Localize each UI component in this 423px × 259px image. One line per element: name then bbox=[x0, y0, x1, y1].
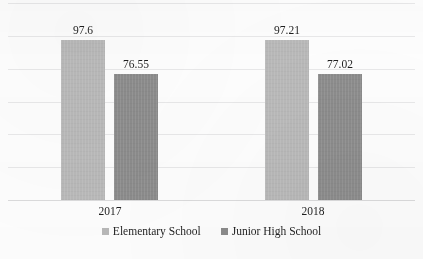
x-axis-label-2018: 2018 bbox=[302, 206, 325, 218]
chart-legend: Elementary SchoolJunior High School bbox=[0, 226, 423, 238]
legend-item-junior-high-school[interactable]: Junior High School bbox=[221, 226, 321, 238]
bar-fill bbox=[265, 40, 309, 200]
gridline bbox=[8, 3, 415, 4]
x-axis-line bbox=[8, 200, 415, 201]
legend-swatch-icon bbox=[102, 228, 109, 235]
bar-value-label: 97.6 bbox=[73, 25, 93, 37]
bar-2018-junior-high-school[interactable]: 77.02 bbox=[318, 74, 362, 200]
bar-2018-elementary-school[interactable]: 97.21 bbox=[265, 40, 309, 200]
gridline bbox=[8, 36, 415, 37]
legend-item-elementary-school[interactable]: Elementary School bbox=[102, 226, 201, 238]
bar-value-label: 76.55 bbox=[123, 59, 149, 71]
bar-value-label: 97.21 bbox=[274, 25, 300, 37]
bar-fill bbox=[114, 74, 158, 200]
legend-label: Elementary School bbox=[113, 226, 201, 238]
bar-fill bbox=[61, 40, 105, 200]
chart-page: 97.676.5597.2177.02 20172018 Elementary … bbox=[0, 0, 423, 259]
legend-label: Junior High School bbox=[232, 226, 321, 238]
legend-swatch-icon bbox=[221, 228, 228, 235]
bar-fill bbox=[318, 74, 362, 200]
bar-2017-elementary-school[interactable]: 97.6 bbox=[61, 40, 105, 200]
x-axis-label-2017: 2017 bbox=[99, 206, 122, 218]
bar-2017-junior-high-school[interactable]: 76.55 bbox=[114, 74, 158, 200]
x-axis-labels: 20172018 bbox=[8, 203, 415, 221]
bar-value-label: 77.02 bbox=[327, 59, 353, 71]
plot-area: 97.676.5597.2177.02 bbox=[8, 3, 415, 200]
